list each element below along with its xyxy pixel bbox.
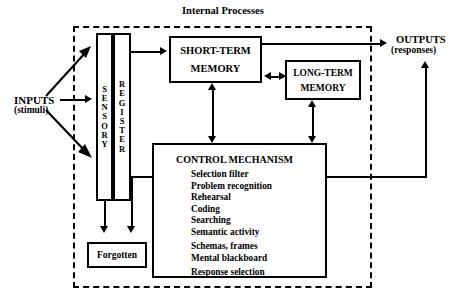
stm-control-head-down bbox=[208, 136, 216, 143]
ltm-control-head-up bbox=[308, 100, 316, 107]
forgotten-label: Forgotten bbox=[89, 250, 145, 260]
stm-label-line1: SHORT-TERM bbox=[171, 45, 260, 56]
outputs-label-line2: (responses) bbox=[391, 45, 436, 56]
control-mechanism-box: CONTROL MECHANISM Selection filter Probl… bbox=[152, 143, 327, 278]
stm-label-line2: MEMORY bbox=[171, 63, 260, 74]
list-item: Selection filter bbox=[191, 169, 272, 181]
forgotten-box: Forgotten bbox=[87, 242, 147, 268]
ltm-label-line2: MEMORY bbox=[287, 83, 359, 93]
long-term-memory-box: LONG-TERM MEMORY bbox=[285, 60, 361, 100]
control-to-forgotten-head bbox=[127, 226, 135, 233]
stm-ltm-head-left bbox=[264, 72, 271, 80]
control-mechanism-list: Selection filter Problem recognition Reh… bbox=[191, 169, 272, 279]
ltm-control-line bbox=[312, 105, 314, 138]
sensory-to-forgotten-head bbox=[100, 226, 108, 233]
control-mechanism-title: CONTROL MECHANISM bbox=[176, 154, 293, 165]
register-box: R E G I S T E R bbox=[113, 33, 131, 201]
input-arrow-lower bbox=[44, 108, 98, 166]
register-letter: R bbox=[119, 145, 125, 154]
diagram-canvas: Internal Processes INPUTS (stimuli) S E … bbox=[0, 0, 467, 306]
sensory-to-forgotten-line bbox=[104, 201, 106, 228]
register-to-stm-line bbox=[131, 51, 162, 53]
list-item: Searching bbox=[191, 215, 272, 227]
sensory-box: S E N S O R Y bbox=[96, 33, 113, 201]
sensory-letter: Y bbox=[101, 140, 107, 149]
list-item: Response selection bbox=[191, 267, 272, 279]
control-to-outputs-vline bbox=[425, 66, 427, 177]
control-to-outputs-hline bbox=[327, 176, 427, 178]
list-item: Mental blackboard bbox=[191, 253, 272, 265]
stm-control-line bbox=[212, 88, 214, 138]
list-item: Semantic activity bbox=[191, 227, 272, 239]
list-item: Schemas, frames bbox=[191, 241, 272, 253]
list-item: Problem recognition bbox=[191, 181, 272, 193]
ltm-label-line1: LONG-TERM bbox=[287, 68, 359, 78]
list-item: Coding bbox=[191, 204, 272, 216]
control-to-outputs-head bbox=[421, 61, 429, 68]
internal-processes-title: Internal Processes bbox=[182, 5, 264, 17]
outputs-label-line1: OUTPUTS bbox=[396, 34, 446, 46]
stm-to-outputs-line bbox=[262, 43, 382, 45]
stm-control-head-up bbox=[208, 83, 216, 90]
input-arrow-upper bbox=[44, 44, 94, 100]
control-to-forgotten-hline bbox=[131, 176, 153, 178]
ltm-control-head-down bbox=[308, 136, 316, 143]
short-term-memory-box: SHORT-TERM MEMORY bbox=[169, 36, 262, 83]
control-to-forgotten-vline bbox=[131, 176, 133, 228]
stm-to-outputs-head bbox=[380, 39, 387, 47]
list-item: Rehearsal bbox=[191, 192, 272, 204]
register-to-stm-head bbox=[160, 47, 167, 55]
